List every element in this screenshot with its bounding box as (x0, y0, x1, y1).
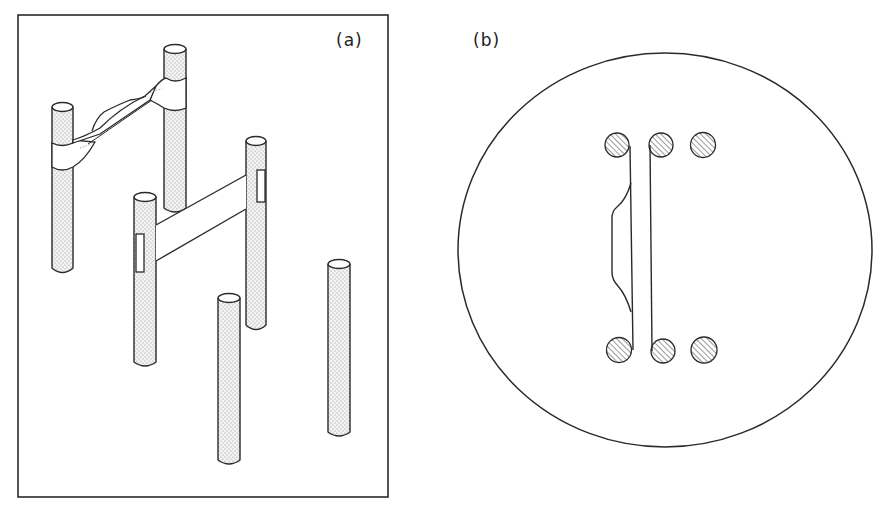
post-p4 (246, 137, 266, 330)
film-attachment-p3 (136, 234, 144, 272)
panel-a-label: (a) (336, 30, 363, 50)
film-attachment-p4 (257, 170, 265, 202)
necked-film-top-view (612, 146, 633, 350)
post-top-left (605, 133, 629, 157)
figure-canvas (0, 0, 886, 505)
post-bottom-left (607, 338, 632, 363)
post-p2 (164, 45, 186, 213)
post-p6 (328, 260, 350, 437)
panel-b (458, 53, 872, 447)
panel-b-label: (b) (473, 30, 500, 50)
post-p1 (52, 103, 73, 273)
post-bottom-right (691, 337, 717, 363)
flat-film-top-view (650, 145, 652, 351)
post-top-right (691, 133, 716, 158)
post-top-middle (649, 133, 673, 157)
panel-a (18, 15, 388, 497)
post-p3 (134, 193, 156, 367)
post-bottom-middle (651, 339, 675, 363)
post-p5 (218, 294, 240, 465)
boundary-circle (458, 53, 872, 447)
